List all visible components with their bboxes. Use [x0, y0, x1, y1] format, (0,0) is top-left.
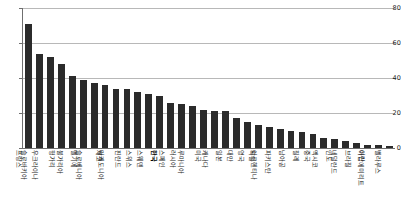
bar-slot	[253, 8, 264, 148]
bar-slot	[220, 8, 231, 148]
plot-area	[23, 8, 395, 148]
x-axis-label: 불가리아	[57, 150, 63, 174]
x-axis-label: 아랍에미리트	[357, 150, 363, 186]
bar-slot	[78, 8, 89, 148]
bar-slot	[351, 8, 362, 148]
bar-slot	[384, 8, 395, 148]
y-tick-mark	[19, 148, 22, 149]
bar[interactable]	[69, 76, 76, 148]
bar[interactable]	[145, 94, 152, 148]
bar-slot	[198, 8, 209, 148]
bar[interactable]	[36, 54, 43, 149]
bar-slot	[121, 8, 132, 148]
x-axis-label: 브라질	[345, 150, 351, 168]
bar[interactable]	[364, 145, 371, 149]
bar[interactable]	[266, 127, 273, 148]
x-axis-label: 아르헨티나	[251, 150, 257, 180]
x-axis-label: 스위스	[126, 150, 132, 168]
bar[interactable]	[233, 118, 240, 148]
bar-slot	[132, 8, 143, 148]
bar-slot	[318, 8, 329, 148]
x-axis-label-slot: 벨라루스	[384, 149, 395, 209]
bar-slot	[34, 8, 45, 148]
bar[interactable]	[102, 85, 109, 148]
bar-slot	[89, 8, 100, 148]
bar-slot	[373, 8, 384, 148]
bar-slot	[187, 8, 198, 148]
bar-slot	[176, 8, 187, 148]
x-axis-label: 마케도니아	[98, 150, 104, 180]
y-tick-mark	[19, 78, 22, 79]
bar[interactable]	[222, 111, 229, 148]
x-axis-label: 캐나다	[202, 150, 208, 168]
bar[interactable]	[320, 138, 327, 149]
bar-slot	[307, 8, 318, 148]
bar-slot	[264, 8, 275, 148]
bar-slot	[340, 8, 351, 148]
bar-slot	[165, 8, 176, 148]
x-axis-label: 슬로베니아	[76, 150, 82, 180]
bar[interactable]	[375, 145, 382, 149]
y-tick-mark	[19, 113, 22, 114]
bar-slot	[154, 8, 165, 148]
y-tick-mark	[19, 8, 22, 9]
x-axis-label: 한국	[151, 150, 157, 162]
bar[interactable]	[47, 57, 54, 148]
bar-slot	[23, 8, 34, 148]
bar[interactable]	[277, 129, 284, 148]
y-tick-mark	[19, 43, 22, 44]
bar[interactable]	[353, 143, 360, 148]
x-axis-label: 핀란드	[115, 150, 121, 168]
bar[interactable]	[80, 80, 87, 148]
x-axis-label: 스페인	[159, 150, 165, 168]
bar[interactable]	[331, 139, 338, 148]
bar[interactable]	[58, 64, 65, 148]
x-axis-label: 네덜란드	[331, 150, 337, 174]
bar-slot	[56, 8, 67, 148]
bar[interactable]	[255, 125, 262, 148]
x-axis-label: 칠레	[293, 150, 299, 162]
bar-slot	[297, 8, 308, 148]
bar[interactable]	[156, 96, 163, 149]
bar[interactable]	[25, 24, 32, 148]
x-axis-label: 중국	[304, 150, 310, 162]
bar-slot	[231, 8, 242, 148]
bar[interactable]	[244, 122, 251, 148]
x-axis-label: 일본	[216, 150, 222, 162]
x-axis-label: 미국	[194, 150, 200, 162]
bar[interactable]	[134, 92, 141, 148]
x-axis-category-labels: 프랑스슬로바키아우크라이나헝가리불가리아벨기에슬로베니아체코마케도니아핀란드스위…	[23, 149, 395, 209]
x-axis-label: 영국	[238, 150, 244, 162]
bar-slot	[111, 8, 122, 148]
x-axis-label: 슬로바키아	[21, 150, 27, 180]
bar[interactable]	[299, 132, 306, 148]
bar[interactable]	[167, 103, 174, 149]
x-axis-label: 멕시코	[312, 150, 318, 168]
x-axis-label: 헝가리	[49, 150, 55, 168]
bar[interactable]	[113, 89, 120, 149]
bar[interactable]	[178, 104, 185, 148]
bar[interactable]	[200, 110, 207, 149]
bar[interactable]	[386, 146, 393, 148]
bar-chart: 020406080 프랑스슬로바키아우크라이나헝가리불가리아벨기에슬로베니아체코…	[0, 0, 401, 209]
bar[interactable]	[342, 141, 349, 148]
bar[interactable]	[124, 89, 131, 149]
bar[interactable]	[91, 83, 98, 148]
bar-slot	[362, 8, 373, 148]
bar-slot	[45, 8, 56, 148]
bar-slot	[67, 8, 78, 148]
bar[interactable]	[189, 106, 196, 148]
x-axis-label: 스웨덴	[137, 150, 143, 168]
bar[interactable]	[288, 131, 295, 149]
x-axis-label: 우크라이나	[32, 150, 38, 180]
bar[interactable]	[310, 134, 317, 148]
x-axis-label: 루마니아	[177, 150, 183, 174]
bar-slot	[275, 8, 286, 148]
bar-slot	[242, 8, 253, 148]
bar-slot	[100, 8, 111, 148]
bar-slot	[329, 8, 340, 148]
bar-slot	[286, 8, 297, 148]
bar-slot	[209, 8, 220, 148]
x-axis-label: 벨라루스	[374, 150, 380, 174]
bar[interactable]	[211, 111, 218, 148]
